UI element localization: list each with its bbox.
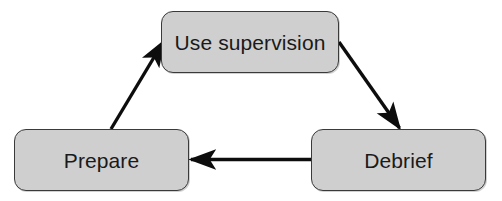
node-use-supervision[interactable]: Use supervision <box>161 11 339 73</box>
node-debrief[interactable]: Debrief <box>311 129 486 191</box>
node-label-prepare: Prepare <box>64 150 139 171</box>
node-label-debrief: Debrief <box>364 150 432 171</box>
edge-prepare-to-use-supervision <box>111 42 164 130</box>
edge-use-supervision-to-debrief <box>339 42 400 128</box>
node-prepare[interactable]: Prepare <box>14 129 189 191</box>
node-label-use-supervision: Use supervision <box>175 32 326 53</box>
diagram-canvas: Use supervision Prepare Debrief <box>0 0 502 201</box>
